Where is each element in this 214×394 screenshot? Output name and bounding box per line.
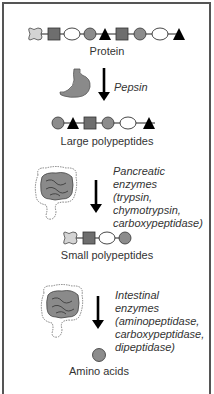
bone-shape bbox=[29, 28, 42, 40]
enzyme-line: carboxypeptidase, bbox=[115, 328, 204, 341]
circle-shape bbox=[52, 117, 64, 129]
large-polypeptides-chain bbox=[51, 115, 161, 131]
circle-shape bbox=[102, 117, 114, 129]
enzyme-line: chymotrypsin, bbox=[113, 204, 203, 217]
enzyme-line: enzymes bbox=[113, 178, 203, 191]
intestine-icon bbox=[32, 165, 80, 221]
amino-acid-circle bbox=[91, 347, 107, 363]
circle-shape bbox=[134, 28, 146, 40]
stage-label-large-polypeptides: Large polypeptides bbox=[0, 135, 214, 147]
stage-label-protein: Protein bbox=[0, 45, 214, 57]
enzyme-line: dipeptidase) bbox=[115, 341, 204, 354]
enzyme-line: enzymes bbox=[115, 302, 204, 315]
arrow-down-icon bbox=[91, 296, 105, 330]
stage-label-small-polypeptides: Small polypeptides bbox=[0, 249, 214, 261]
enzyme-label-intestinal: Intestinal enzymes (aminopeptidase, carb… bbox=[115, 289, 204, 354]
stage-label-amino-acids: Amino acids bbox=[69, 365, 129, 377]
small-polypeptides-chain bbox=[63, 230, 135, 246]
arrow-down-icon bbox=[97, 68, 111, 102]
enzyme-label-pepsin: Pepsin bbox=[114, 81, 148, 94]
arrow-down-icon bbox=[89, 180, 103, 214]
enzyme-line: (aminopeptidase, bbox=[115, 315, 204, 328]
oval-shape bbox=[64, 28, 80, 40]
enzyme-line: (trypsin, bbox=[113, 191, 203, 204]
enzyme-label-pancreatic: Pancreatic enzymes (trypsin, chymotrypsi… bbox=[113, 165, 203, 230]
oval-shape bbox=[99, 232, 115, 244]
circle-shape bbox=[119, 232, 131, 244]
square-shape bbox=[84, 117, 96, 129]
enzyme-line: Pancreatic bbox=[113, 165, 203, 178]
intestine-icon bbox=[38, 283, 86, 339]
enzyme-line: carboxypeptidase) bbox=[113, 217, 203, 230]
circle-shape bbox=[84, 28, 96, 40]
oval-shape bbox=[152, 28, 168, 40]
enzyme-line: Intestinal bbox=[115, 289, 204, 302]
square-shape bbox=[116, 28, 128, 40]
stomach-icon bbox=[58, 68, 94, 100]
square-shape bbox=[83, 232, 95, 244]
square-shape bbox=[48, 28, 60, 40]
oval-shape bbox=[120, 117, 136, 129]
bone-shape bbox=[64, 232, 77, 244]
protein-chain bbox=[28, 26, 188, 42]
